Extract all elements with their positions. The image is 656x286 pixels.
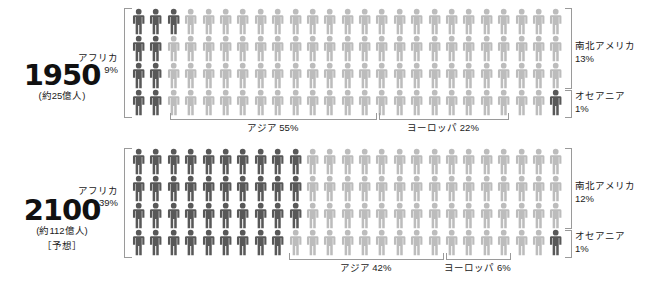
person-icon bbox=[200, 62, 217, 89]
person-icon bbox=[217, 175, 234, 202]
person-icon bbox=[391, 202, 408, 229]
person-icon bbox=[408, 175, 425, 202]
panel-1950: 1950 (約25億人) アフリカ 9% 南北アメリカ 13% オセアニア 1%… bbox=[0, 0, 656, 143]
africa-label-2100: アフリカ 39% bbox=[56, 185, 118, 209]
person-icon bbox=[478, 62, 495, 89]
person-icon bbox=[478, 148, 495, 175]
person-icon bbox=[200, 202, 217, 229]
person-icon bbox=[356, 229, 373, 256]
person-icon bbox=[460, 8, 477, 35]
person-icon bbox=[234, 202, 251, 229]
person-icon bbox=[321, 89, 338, 116]
person-icon bbox=[269, 8, 286, 35]
person-icon bbox=[304, 148, 321, 175]
person-icon bbox=[391, 35, 408, 62]
pictogram-grid-2100 bbox=[130, 148, 565, 256]
person-icon bbox=[200, 35, 217, 62]
pictogram-row bbox=[130, 35, 565, 62]
person-icon bbox=[287, 175, 304, 202]
americas-bracket-1950 bbox=[565, 8, 572, 89]
person-icon bbox=[252, 148, 269, 175]
person-icon bbox=[391, 8, 408, 35]
person-icon bbox=[287, 62, 304, 89]
person-icon bbox=[234, 89, 251, 116]
person-icon bbox=[269, 148, 286, 175]
person-icon bbox=[287, 148, 304, 175]
oceania-percent: 1% bbox=[575, 103, 625, 116]
africa-name: アフリカ bbox=[56, 52, 118, 64]
person-icon bbox=[513, 89, 530, 116]
person-icon bbox=[217, 62, 234, 89]
person-icon bbox=[287, 8, 304, 35]
person-icon bbox=[513, 35, 530, 62]
year-population: (約25億人) bbox=[6, 90, 118, 102]
person-icon bbox=[495, 202, 512, 229]
africa-name: アフリカ bbox=[56, 185, 118, 197]
person-icon bbox=[234, 62, 251, 89]
person-icon bbox=[373, 229, 390, 256]
person-icon bbox=[200, 229, 217, 256]
africa-label-1950: アフリカ 9% bbox=[56, 52, 118, 76]
person-icon bbox=[234, 148, 251, 175]
pictogram-row bbox=[130, 229, 565, 256]
europe-label-2100: ヨーロッパ 6% bbox=[436, 262, 519, 274]
person-icon bbox=[339, 62, 356, 89]
person-icon bbox=[513, 148, 530, 175]
asia-label-2100: アジア 42% bbox=[289, 262, 442, 274]
person-icon bbox=[408, 148, 425, 175]
person-icon bbox=[321, 202, 338, 229]
person-icon bbox=[252, 175, 269, 202]
person-icon bbox=[182, 8, 199, 35]
person-icon bbox=[547, 148, 564, 175]
person-icon bbox=[200, 89, 217, 116]
person-icon bbox=[356, 89, 373, 116]
person-icon bbox=[165, 62, 182, 89]
person-icon bbox=[287, 229, 304, 256]
person-icon bbox=[530, 62, 547, 89]
person-icon bbox=[200, 175, 217, 202]
person-icon bbox=[304, 89, 321, 116]
pictogram-row bbox=[130, 175, 565, 202]
person-icon bbox=[200, 148, 217, 175]
americas-name: 南北アメリカ bbox=[575, 40, 635, 53]
person-icon bbox=[252, 62, 269, 89]
person-icon bbox=[478, 8, 495, 35]
americas-percent: 12% bbox=[575, 193, 635, 206]
asia-bracket-2100 bbox=[289, 253, 444, 260]
person-icon bbox=[460, 175, 477, 202]
americas-label-2100: 南北アメリカ 12% bbox=[575, 180, 635, 205]
person-icon bbox=[426, 229, 443, 256]
person-icon bbox=[530, 148, 547, 175]
person-icon bbox=[495, 175, 512, 202]
person-icon bbox=[373, 175, 390, 202]
person-icon bbox=[443, 8, 460, 35]
person-icon bbox=[339, 8, 356, 35]
person-icon bbox=[130, 175, 147, 202]
africa-percent: 9% bbox=[56, 64, 118, 76]
person-icon bbox=[426, 175, 443, 202]
person-icon bbox=[373, 62, 390, 89]
person-icon bbox=[321, 35, 338, 62]
person-icon bbox=[530, 202, 547, 229]
person-icon bbox=[495, 148, 512, 175]
person-icon bbox=[478, 175, 495, 202]
person-icon bbox=[408, 8, 425, 35]
person-icon bbox=[182, 202, 199, 229]
person-icon bbox=[373, 8, 390, 35]
person-icon bbox=[443, 89, 460, 116]
person-icon bbox=[217, 8, 234, 35]
person-icon bbox=[356, 62, 373, 89]
person-icon bbox=[547, 202, 564, 229]
person-icon bbox=[530, 89, 547, 116]
person-icon bbox=[234, 35, 251, 62]
person-icon bbox=[269, 175, 286, 202]
pictogram-row bbox=[130, 8, 565, 35]
asia-label-1950: アジア 55% bbox=[170, 122, 375, 134]
person-icon bbox=[460, 89, 477, 116]
person-icon bbox=[287, 89, 304, 116]
pictogram-row bbox=[130, 202, 565, 229]
person-icon bbox=[530, 35, 547, 62]
oceania-bracket-1950 bbox=[565, 90, 572, 118]
person-icon bbox=[391, 148, 408, 175]
person-icon bbox=[426, 202, 443, 229]
